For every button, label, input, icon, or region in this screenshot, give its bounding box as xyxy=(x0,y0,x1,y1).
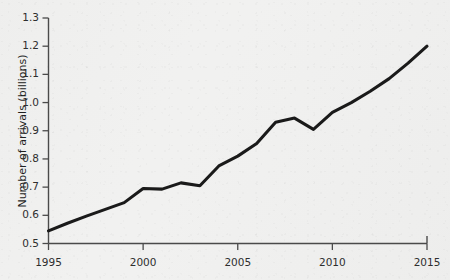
x-tick-label: 2015 xyxy=(414,256,441,268)
chart-canvas: Number of arrivals (billions) 0.50.60.70… xyxy=(0,0,450,280)
data-series-line xyxy=(49,46,428,231)
x-tick-label: 2000 xyxy=(130,256,157,268)
y-axis-tick-group: 0.50.60.70.80.91.01.11.21.3 xyxy=(22,11,48,249)
y-tick-label: 0.6 xyxy=(22,208,39,220)
x-tick-label: 1995 xyxy=(35,256,62,268)
y-tick-label: 0.7 xyxy=(22,180,39,192)
y-tick-label: 1.0 xyxy=(22,96,39,108)
y-tick-label: 0.9 xyxy=(22,124,39,136)
y-tick-label: 0.5 xyxy=(22,237,39,249)
line-chart: Number of arrivals (billions) 0.50.60.70… xyxy=(0,0,450,280)
x-tick-label: 2010 xyxy=(319,256,346,268)
y-tick-label: 1.3 xyxy=(22,11,39,23)
y-tick-label: 1.2 xyxy=(22,39,39,51)
x-tick-label: 2005 xyxy=(224,256,251,268)
y-tick-label: 0.8 xyxy=(22,152,39,164)
y-tick-label: 1.1 xyxy=(22,67,39,79)
x-axis-tick-group: 19952000200520102015 xyxy=(35,244,440,269)
